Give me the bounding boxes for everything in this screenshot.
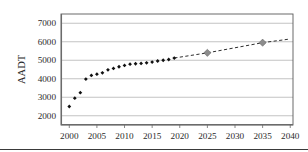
y-tick-label: 5000 [38, 55, 57, 65]
x-tick-label: 2015 [143, 131, 162, 141]
x-tick-label: 2030 [226, 131, 245, 141]
x-axis-tick-labels: 200020052010201520202025203020352040 [60, 131, 300, 141]
x-tick-label: 2020 [171, 131, 190, 141]
x-tick-label: 2005 [88, 131, 107, 141]
plot-area-background [61, 14, 293, 125]
x-tick-label: 2025 [198, 131, 217, 141]
y-axis-title: AADT [16, 54, 27, 84]
aadt-chart: 200030004000500060007000 200020052010201… [0, 0, 308, 152]
y-tick-label: 4000 [38, 74, 57, 84]
x-tick-label: 2000 [60, 131, 79, 141]
x-tick-label: 2010 [115, 131, 134, 141]
x-tick-label: 2035 [253, 131, 272, 141]
y-tick-label: 6000 [38, 37, 57, 47]
chart-figure: 200030004000500060007000 200020052010201… [0, 0, 308, 152]
x-tick-label: 2040 [281, 131, 300, 141]
y-axis-tick-labels: 200030004000500060007000 [38, 18, 57, 121]
y-tick-label: 2000 [38, 111, 57, 121]
y-tick-label: 7000 [38, 18, 57, 28]
y-tick-label: 3000 [38, 92, 57, 102]
